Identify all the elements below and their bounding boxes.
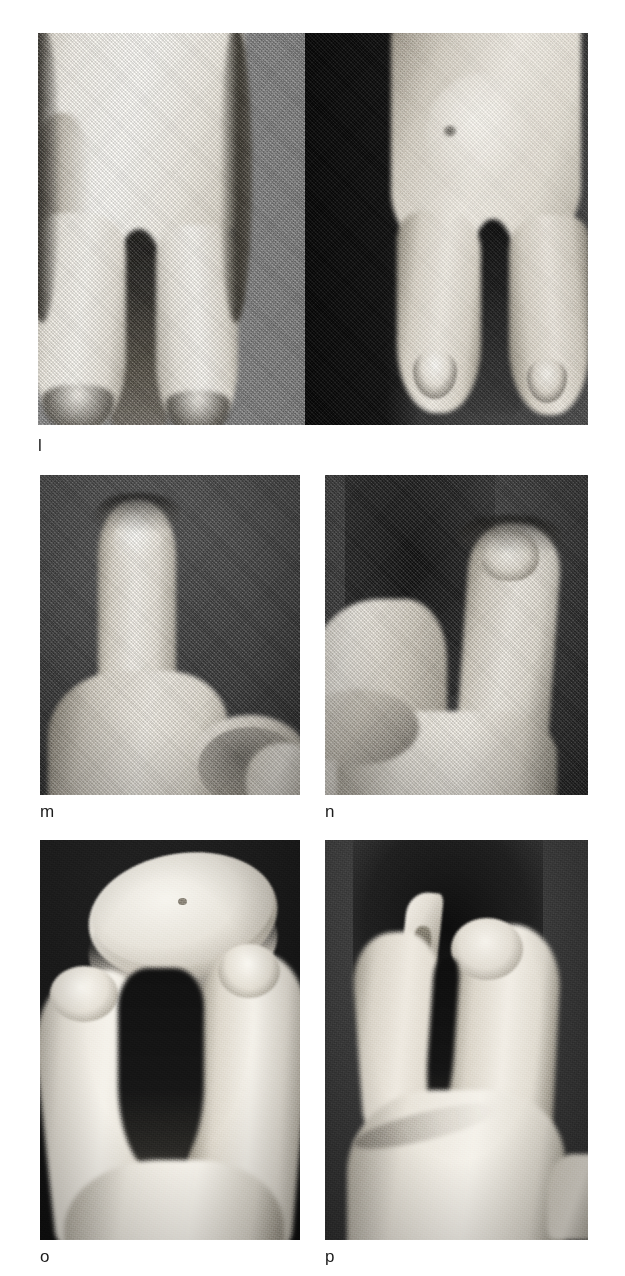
- figure-plate: l m: [0, 0, 625, 1276]
- panel-caption-p: p: [325, 1248, 335, 1265]
- digit-rim-shadow: [457, 515, 561, 555]
- photo-content-l-right: [305, 33, 588, 425]
- photo-content-p: [325, 840, 588, 1240]
- photo-panel-m: [40, 475, 300, 795]
- photo-panel-n: [325, 475, 588, 795]
- digit-right-tip-bulb: [451, 918, 523, 980]
- panel-caption-o: o: [40, 1248, 50, 1265]
- photo-content-n: [325, 475, 588, 795]
- photo-content-o: [40, 840, 300, 1240]
- photo-content-l-left: [38, 33, 305, 425]
- skin-blemish: [443, 125, 457, 137]
- panel-caption-l: l: [38, 437, 42, 454]
- interdigital-cleft: [118, 968, 204, 1176]
- photo-panel-l-right: [305, 33, 588, 425]
- panel-caption-m: m: [40, 803, 54, 820]
- digit-left-tip-shadow: [42, 385, 114, 425]
- digit-left-tip: [50, 966, 118, 1022]
- digit-right-tip-shadow: [166, 391, 230, 425]
- jar-lid-center-dimple: [178, 898, 187, 905]
- digit-tip-rim-shadow: [96, 493, 180, 533]
- photo-panel-p: [325, 840, 588, 1240]
- photo-panel-o: [40, 840, 300, 1240]
- photo-content-m: [40, 475, 300, 795]
- digit-right-tip: [218, 944, 280, 998]
- panel-caption-n: n: [325, 803, 335, 820]
- photo-panel-l-left: [38, 33, 305, 425]
- adjacent-finger-right: [547, 1154, 588, 1240]
- hand-outline-shadow-right: [220, 33, 252, 323]
- hand-knuckle-highlight: [425, 73, 545, 203]
